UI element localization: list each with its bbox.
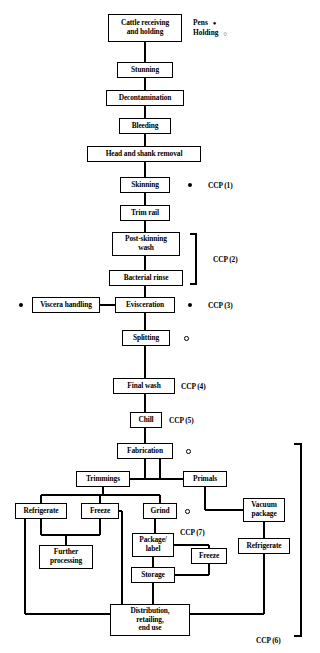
node-cattle-receiving[interactable]: Cattle receiving and holding: [108, 14, 182, 42]
open-circle-icon-fabrication: [186, 449, 191, 454]
node-primals[interactable]: Primals: [183, 471, 227, 487]
legend-label-holding: Holding: [193, 28, 218, 37]
ccp-label-3: CCP (3): [208, 301, 233, 310]
node-post-skinning-wash[interactable]: Post-skinning wash: [112, 232, 180, 256]
ccp-label-7: CCP (7): [180, 528, 205, 537]
haccp-flow-diagram: Cattle receiving and holding Stunning De…: [0, 0, 320, 653]
open-circle-icon-splitting: [184, 336, 189, 341]
node-storage[interactable]: Storage: [131, 567, 175, 583]
open-circle-icon: ○: [223, 30, 227, 37]
open-circle-icon-grind: [185, 509, 190, 514]
legend-label-pens: Pens: [193, 18, 208, 27]
node-stunning[interactable]: Stunning: [117, 62, 173, 78]
node-vacuum-package[interactable]: Vacuum package: [243, 498, 285, 522]
legend-item-pens: Pens ●: [193, 18, 216, 27]
node-freeze-left[interactable]: Freeze: [81, 503, 119, 519]
node-package-label[interactable]: Package/ label: [132, 533, 174, 557]
filled-circle-icon-evisceration: [188, 303, 192, 307]
ccp-label-6: CCP (6): [256, 636, 281, 645]
node-splitting[interactable]: Splitting: [122, 330, 170, 346]
legend-item-holding: Holding ○: [193, 28, 227, 37]
node-bacterial-rinse[interactable]: Bacterial rinse: [109, 270, 183, 286]
node-evisceration[interactable]: Evisceration: [115, 297, 175, 313]
node-trim-rail[interactable]: Trim rail: [120, 205, 170, 221]
node-head-shank-removal[interactable]: Head and shank removal: [87, 146, 201, 162]
filled-circle-icon-viscera: [19, 303, 23, 307]
ccp-label-1: CCP (1): [208, 181, 233, 190]
node-freeze-right[interactable]: Freeze: [191, 548, 227, 564]
ccp-label-2: CCP (2): [213, 255, 238, 264]
filled-circle-icon-skinning: [188, 183, 192, 187]
filled-circle-icon: ●: [213, 20, 217, 26]
node-refrigerate-right[interactable]: Refrigerate: [238, 538, 290, 554]
node-skinning[interactable]: Skinning: [120, 177, 170, 193]
node-distribution[interactable]: Distribution, retailing, end use: [110, 604, 190, 636]
node-bleeding[interactable]: Bleeding: [119, 118, 171, 134]
node-chill[interactable]: Chill: [130, 412, 162, 428]
node-grind[interactable]: Grind: [143, 503, 177, 519]
node-final-wash[interactable]: Final wash: [113, 378, 175, 394]
node-trimmings[interactable]: Trimmings: [76, 471, 130, 487]
ccp-label-4: CCP (4): [181, 382, 206, 391]
node-fabrication[interactable]: Fabrication: [117, 443, 173, 459]
node-viscera-handling[interactable]: Viscera handling: [32, 297, 100, 313]
node-refrigerate-left[interactable]: Refrigerate: [15, 503, 67, 519]
ccp-label-5: CCP (5): [169, 416, 194, 425]
node-decontamination[interactable]: Decontamination: [106, 90, 184, 106]
node-further-processing[interactable]: Further processing: [39, 545, 93, 569]
